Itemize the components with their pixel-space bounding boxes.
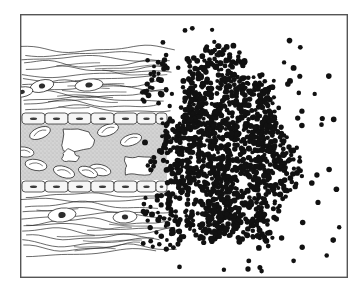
illustration-canvas (0, 0, 362, 292)
illustration-figure (0, 0, 362, 292)
